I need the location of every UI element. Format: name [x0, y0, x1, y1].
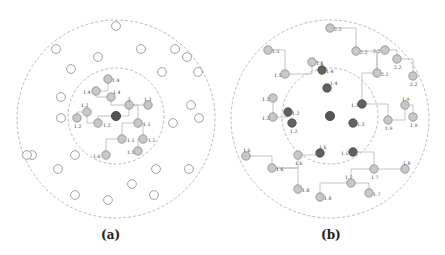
- relay-node: 1.7: [345, 175, 355, 188]
- node-label: 1.5: [272, 49, 279, 54]
- informed-node: 1.6: [316, 145, 327, 158]
- figure-canvas: 1.41.41.411.31.21.21.21.51.51.51.51.6 1.…: [0, 0, 445, 255]
- node-circle: [365, 189, 373, 197]
- nodes-b: 1.41.41.21.21.31.31.61.52.22.22.22.22.22…: [242, 24, 418, 201]
- relay-node: 1.7: [365, 189, 381, 197]
- relay-node: 2.2: [393, 55, 402, 70]
- unreached-node: [169, 119, 178, 128]
- node-circle: [349, 119, 357, 127]
- unreached-node: [71, 191, 80, 200]
- node-circle: [52, 45, 61, 54]
- node-label: 1.6: [93, 154, 100, 159]
- node-circle: [158, 68, 167, 77]
- node-label: 1.5: [127, 150, 134, 155]
- node-circle: [71, 191, 80, 200]
- node-label: 1.2: [292, 111, 299, 116]
- node-label: 1.5: [127, 138, 134, 143]
- node-circle: [169, 119, 178, 128]
- unreached-node: [104, 196, 113, 205]
- node-circle: [183, 53, 192, 62]
- node-circle: [57, 114, 66, 123]
- unreached-node: [94, 53, 103, 62]
- relay-node: 1.9: [409, 113, 418, 128]
- node-circle: [171, 45, 180, 54]
- node-circle: [137, 45, 146, 54]
- node-circle: [264, 46, 272, 54]
- node-circle: [94, 53, 103, 62]
- node-circle: [94, 119, 102, 127]
- caption-a: (a): [101, 228, 120, 242]
- node-circle: [316, 149, 324, 157]
- node-circle: [288, 119, 296, 127]
- node-circle: [111, 111, 120, 120]
- relay-node: 1.5: [139, 135, 156, 143]
- relay-node: 1.5: [264, 46, 280, 54]
- node-circle: [318, 66, 326, 74]
- node-circle: [281, 70, 289, 78]
- unreached-node: [54, 165, 63, 174]
- relay-node: 1.6: [242, 148, 251, 161]
- node-label: 1.9: [410, 123, 417, 128]
- node-circle: [269, 94, 277, 102]
- node-label: 2.2: [381, 72, 388, 77]
- node-label: 1.6: [276, 167, 283, 172]
- node-label: 1.2: [74, 124, 81, 129]
- node-label: 1.3: [351, 103, 358, 108]
- node-label: 1.9: [402, 97, 409, 102]
- informed-node: 1.4: [318, 66, 334, 74]
- unreached-node: [128, 180, 137, 189]
- relay-node: 1.8: [401, 161, 411, 174]
- node-label: 1.2: [103, 123, 110, 128]
- relay-node: 1.6: [93, 151, 110, 159]
- node-label: 1.2: [262, 97, 269, 102]
- unreached-node: [152, 165, 161, 174]
- unreached-node: [183, 53, 192, 62]
- relay-node: 1.2: [94, 119, 111, 128]
- node-circle: [185, 165, 194, 174]
- node-circle: [54, 165, 63, 174]
- source-node: [325, 111, 334, 120]
- unreached-node: [57, 93, 66, 102]
- node-label: 2.2: [394, 65, 401, 70]
- unreached-node: [57, 114, 66, 123]
- relay-node: 1.5: [118, 135, 135, 143]
- informed-node: 1.2: [288, 119, 298, 134]
- node-label: 1.4: [326, 69, 333, 74]
- relay-node: 1.8: [316, 193, 332, 201]
- node-label: 1.9: [385, 126, 392, 131]
- relay-node: 2.2: [409, 72, 418, 87]
- informed-node: 1.2: [284, 108, 300, 116]
- relay-node: 1.6: [308, 58, 324, 66]
- unreached-node: [158, 68, 167, 77]
- relay-node: 1.6: [268, 164, 284, 172]
- node-label: 1.8: [302, 188, 309, 193]
- node-label: 2.2: [360, 50, 367, 55]
- relay-node: 2.2: [373, 46, 389, 54]
- node-circle: [134, 119, 142, 127]
- node-circle: [381, 46, 389, 54]
- node-circle: [316, 193, 324, 201]
- node-label: 1.2: [290, 129, 297, 134]
- unreached-node: [137, 45, 146, 54]
- relay-node: 1.6: [294, 151, 303, 166]
- unreached-node: [195, 114, 204, 123]
- node-circle: [358, 100, 366, 108]
- node-circle: [242, 152, 250, 160]
- node-circle: [294, 185, 302, 193]
- node-circle: [125, 101, 133, 109]
- node-label: 1.4: [113, 90, 120, 95]
- informed-node: 1.4: [323, 81, 338, 93]
- node-circle: [401, 101, 409, 109]
- node-circle: [308, 58, 316, 66]
- node-circle: [150, 191, 159, 200]
- node-circle: [294, 151, 302, 159]
- relay-node: 1: [125, 97, 133, 110]
- node-label: 1.5: [148, 138, 155, 143]
- relay-node: 1.4: [83, 87, 100, 95]
- node-circle: [92, 87, 100, 95]
- node-label: 2.2: [373, 49, 380, 54]
- unreached-node: [71, 151, 80, 160]
- node-label: 1.8: [403, 161, 410, 166]
- node-circle: [370, 165, 378, 173]
- node-circle: [284, 108, 292, 116]
